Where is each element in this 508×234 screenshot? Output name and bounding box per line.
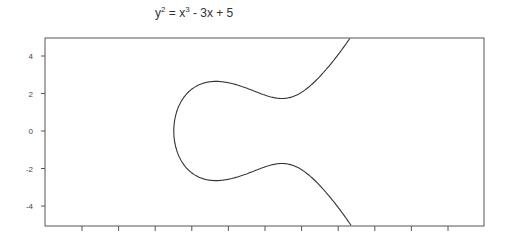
curve-group xyxy=(174,39,351,226)
chart-title: y2 = x3 - 3x + 5 xyxy=(155,5,234,20)
y-tick-label: 2 xyxy=(29,90,34,99)
y-tick-label: -4 xyxy=(26,202,34,211)
x-axis xyxy=(82,226,448,231)
y-tick-label: 4 xyxy=(29,52,34,61)
plot-frame xyxy=(45,38,484,226)
y-tick-label: -2 xyxy=(26,165,34,174)
chart: y2 = x3 - 3x + 5 420-2-4 xyxy=(0,0,508,234)
y-axis: 420-2-4 xyxy=(26,52,45,211)
curve-line xyxy=(174,39,351,226)
y-tick-label: 0 xyxy=(29,127,34,136)
